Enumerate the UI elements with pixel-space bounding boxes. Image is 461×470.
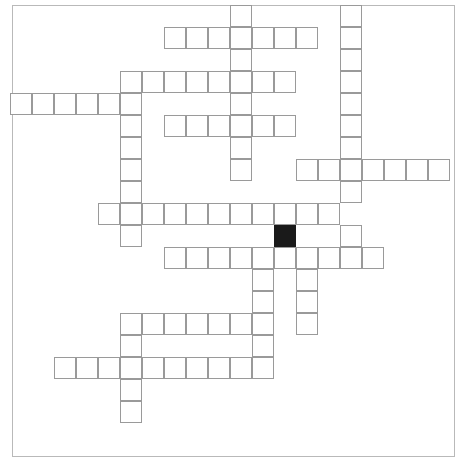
crossword-cell[interactable] xyxy=(120,137,142,159)
crossword-cell[interactable] xyxy=(340,247,362,269)
crossword-cell[interactable] xyxy=(186,71,208,93)
crossword-cell[interactable] xyxy=(98,203,120,225)
crossword-cell[interactable] xyxy=(318,247,340,269)
crossword-cell[interactable] xyxy=(76,357,98,379)
crossword-cell[interactable] xyxy=(318,159,340,181)
crossword-cell[interactable] xyxy=(120,115,142,137)
crossword-cell[interactable] xyxy=(274,27,296,49)
crossword-cell[interactable] xyxy=(384,159,406,181)
crossword-cell[interactable] xyxy=(340,27,362,49)
crossword-cell[interactable] xyxy=(230,159,252,181)
crossword-cell[interactable] xyxy=(340,5,362,27)
crossword-cell[interactable] xyxy=(296,313,318,335)
crossword-cell[interactable] xyxy=(208,203,230,225)
crossword-cell[interactable] xyxy=(142,203,164,225)
crossword-cell[interactable] xyxy=(406,159,428,181)
crossword-cell[interactable] xyxy=(142,357,164,379)
crossword-cell[interactable] xyxy=(54,93,76,115)
crossword-cell[interactable] xyxy=(186,357,208,379)
crossword-cell[interactable] xyxy=(164,357,186,379)
crossword-cell[interactable] xyxy=(230,247,252,269)
crossword-cell[interactable] xyxy=(274,71,296,93)
crossword-cell[interactable] xyxy=(208,313,230,335)
crossword-cell[interactable] xyxy=(340,137,362,159)
crossword-cell[interactable] xyxy=(252,115,274,137)
crossword-cell[interactable] xyxy=(296,247,318,269)
crossword-cell[interactable] xyxy=(230,203,252,225)
crossword-cell[interactable] xyxy=(120,203,142,225)
crossword-cell[interactable] xyxy=(274,203,296,225)
crossword-cell[interactable] xyxy=(252,247,274,269)
crossword-cell[interactable] xyxy=(164,313,186,335)
crossword-cell[interactable] xyxy=(340,225,362,247)
crossword-cell[interactable] xyxy=(120,401,142,423)
crossword-cell[interactable] xyxy=(296,291,318,313)
crossword-cell[interactable] xyxy=(230,93,252,115)
crossword-cell[interactable] xyxy=(186,27,208,49)
crossword-cell[interactable] xyxy=(362,159,384,181)
crossword-cell[interactable] xyxy=(252,27,274,49)
crossword-cell[interactable] xyxy=(54,357,76,379)
crossword-cell[interactable] xyxy=(120,93,142,115)
crossword-cell[interactable] xyxy=(296,269,318,291)
crossword-cell[interactable] xyxy=(296,159,318,181)
crossword-cell[interactable] xyxy=(142,313,164,335)
crossword-cell[interactable] xyxy=(252,313,274,335)
crossword-cell[interactable] xyxy=(296,27,318,49)
crossword-cell[interactable] xyxy=(120,159,142,181)
crossword-cell[interactable] xyxy=(164,247,186,269)
crossword-cell[interactable] xyxy=(164,27,186,49)
crossword-cell[interactable] xyxy=(32,93,54,115)
crossword-cell[interactable] xyxy=(120,225,142,247)
crossword-cell[interactable] xyxy=(230,313,252,335)
crossword-cell[interactable] xyxy=(318,203,340,225)
crossword-cell[interactable] xyxy=(164,203,186,225)
crossword-cell[interactable] xyxy=(230,71,252,93)
crossword-cell[interactable] xyxy=(230,115,252,137)
crossword-cell[interactable] xyxy=(296,203,318,225)
crossword-cell[interactable] xyxy=(120,181,142,203)
crossword-cell[interactable] xyxy=(230,27,252,49)
crossword-cell[interactable] xyxy=(208,71,230,93)
crossword-cell[interactable] xyxy=(362,247,384,269)
crossword-cell[interactable] xyxy=(120,313,142,335)
crossword-cell[interactable] xyxy=(340,93,362,115)
crossword-cell[interactable] xyxy=(230,357,252,379)
crossword-cell[interactable] xyxy=(186,115,208,137)
crossword-cell[interactable] xyxy=(186,313,208,335)
crossword-cell[interactable] xyxy=(120,71,142,93)
crossword-cell[interactable] xyxy=(274,247,296,269)
crossword-cell[interactable] xyxy=(252,357,274,379)
crossword-cell[interactable] xyxy=(208,247,230,269)
crossword-grid[interactable] xyxy=(0,0,461,470)
crossword-cell[interactable] xyxy=(186,247,208,269)
crossword-cell[interactable] xyxy=(340,71,362,93)
crossword-cell[interactable] xyxy=(274,115,296,137)
crossword-cell[interactable] xyxy=(76,93,98,115)
crossword-cell[interactable] xyxy=(164,71,186,93)
crossword-cell[interactable] xyxy=(10,93,32,115)
crossword-cell[interactable] xyxy=(340,115,362,137)
crossword-cell[interactable] xyxy=(230,5,252,27)
crossword-cell[interactable] xyxy=(230,49,252,71)
crossword-cell[interactable] xyxy=(120,335,142,357)
crossword-cell[interactable] xyxy=(340,159,362,181)
crossword-cell[interactable] xyxy=(340,181,362,203)
crossword-cell[interactable] xyxy=(120,379,142,401)
crossword-cell[interactable] xyxy=(98,357,120,379)
crossword-cell[interactable] xyxy=(252,291,274,313)
crossword-cell[interactable] xyxy=(142,71,164,93)
crossword-cell[interactable] xyxy=(252,203,274,225)
crossword-cell[interactable] xyxy=(208,357,230,379)
crossword-cell[interactable] xyxy=(230,137,252,159)
crossword-cell[interactable] xyxy=(252,71,274,93)
crossword-cell[interactable] xyxy=(98,93,120,115)
crossword-cell[interactable] xyxy=(186,203,208,225)
crossword-cell[interactable] xyxy=(164,115,186,137)
crossword-cell[interactable] xyxy=(340,49,362,71)
crossword-cell[interactable] xyxy=(208,27,230,49)
crossword-cell[interactable] xyxy=(120,357,142,379)
crossword-cell[interactable] xyxy=(252,335,274,357)
crossword-cell[interactable] xyxy=(252,269,274,291)
crossword-cell[interactable] xyxy=(208,115,230,137)
